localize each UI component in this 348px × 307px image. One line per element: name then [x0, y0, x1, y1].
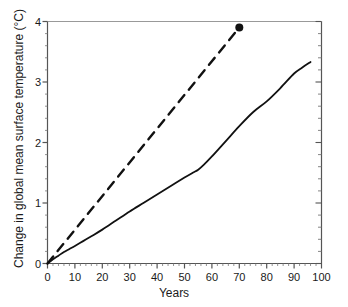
- x-tick-label: 10: [69, 272, 81, 283]
- x-tick-label: 30: [124, 272, 136, 283]
- x-tick-label: 100: [312, 272, 330, 283]
- x-tick-label: 0: [44, 272, 50, 283]
- x-tick-label: 90: [288, 272, 300, 283]
- data-marker-layer: [235, 24, 243, 32]
- x-axis-title: Years: [0, 286, 348, 300]
- y-axis-title: Change in global mean surface temperatur…: [12, 18, 26, 268]
- axis-tick-marks: [43, 22, 322, 269]
- series-dashed-line: [48, 28, 240, 264]
- plot-canvas: [0, 0, 348, 307]
- x-tick-label: 40: [151, 272, 163, 283]
- series-solid-curve: [48, 62, 311, 263]
- chart-figure: 010203040506070809010001234 Years Change…: [0, 0, 348, 307]
- y-tick-label: 4: [26, 16, 41, 27]
- axis-spines: [47, 21, 322, 264]
- y-tick-label: 0: [26, 258, 41, 269]
- x-tick-label: 20: [96, 272, 108, 283]
- data-series-layer: [48, 28, 311, 264]
- x-tick-label: 70: [233, 272, 245, 283]
- x-tick-label: 80: [261, 272, 273, 283]
- y-tick-label: 1: [26, 198, 41, 209]
- x-tick-label: 50: [178, 272, 190, 283]
- x-tick-label: 60: [206, 272, 218, 283]
- y-tick-label: 3: [26, 77, 41, 88]
- y-tick-label: 2: [26, 137, 41, 148]
- marker-dashed-line-endpoint: [235, 24, 243, 32]
